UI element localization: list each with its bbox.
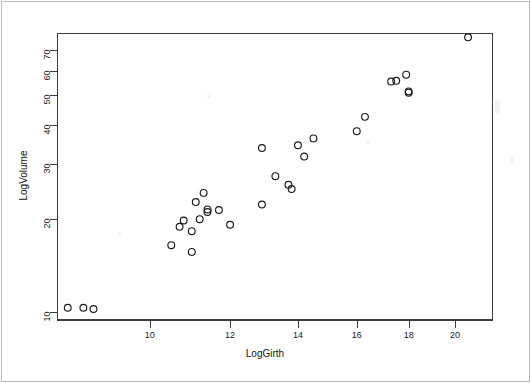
y-axis-title: LogVolume <box>18 129 29 223</box>
scan-speckle <box>510 155 514 165</box>
y-axis-tick-label: 20 <box>43 218 52 228</box>
x-axis-tick-label: 14 <box>278 331 318 340</box>
y-axis-tick-label: 70 <box>43 50 52 60</box>
x-axis-line <box>57 320 493 321</box>
x-axis-tick-label: 12 <box>210 331 250 340</box>
x-axis-tick-label: 10 <box>130 331 170 340</box>
x-axis-title: LogGirth <box>0 348 531 359</box>
y-axis-tick-label: 60 <box>43 70 52 80</box>
x-axis-tick <box>298 321 299 328</box>
scatter-plot-figure: 10203040506070 101214161820 LogGirth Log… <box>0 0 531 383</box>
y-axis-tick-label: 40 <box>43 125 52 135</box>
y-axis-tick-label: 10 <box>43 311 52 321</box>
y-axis-tick-label: 50 <box>43 95 52 105</box>
y-axis-title-wrap: LogVolume <box>16 0 30 383</box>
y-axis-tick-label: 30 <box>43 164 52 174</box>
scan-speckle <box>495 100 500 114</box>
x-axis-tick <box>150 321 151 328</box>
x-axis-tick <box>357 321 358 328</box>
plot-area-box <box>57 33 493 320</box>
y-axis-line <box>57 33 58 320</box>
x-axis-tick <box>230 321 231 328</box>
x-axis-tick-label: 16 <box>337 331 377 340</box>
x-axis-tick <box>409 321 410 328</box>
x-axis-tick-label: 20 <box>435 331 475 340</box>
x-axis-tick <box>455 321 456 328</box>
x-axis-tick-label: 18 <box>389 331 429 340</box>
